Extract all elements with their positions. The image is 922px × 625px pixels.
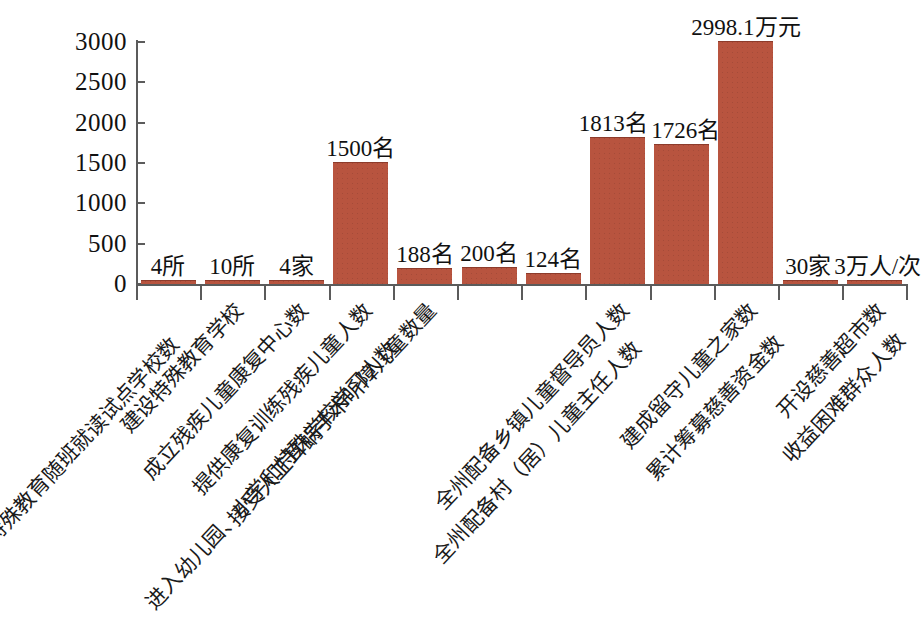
x-axis-tick (136, 284, 138, 300)
y-axis-tick-label: 0 (114, 271, 127, 296)
bar-value-label: 1813名 (579, 112, 648, 136)
bar: 1813名 (590, 137, 645, 284)
x-axis-category-label: 建成留守儿童之家数 (617, 300, 761, 453)
x-axis-category-label: 全州配备乡镇儿童督导员人数 (431, 300, 633, 514)
bar: 188名 (397, 268, 452, 284)
bar-value-label: 4家 (279, 255, 314, 279)
bar-value-label: 10所 (209, 255, 255, 279)
bar-value-label: 1726名 (651, 119, 720, 143)
x-axis-category-label: 累计筹募慈善资金数 (643, 332, 787, 485)
bar: 200名 (462, 267, 517, 284)
bar-value-label: 4所 (151, 255, 186, 279)
bar: 1726名 (654, 144, 709, 284)
bar-value-label: 188名 (396, 243, 454, 267)
x-axis-tick (585, 284, 587, 300)
x-axis-tick (650, 284, 652, 300)
x-axis-tick (457, 284, 459, 300)
y-axis-tick-label: 2500 (75, 69, 127, 94)
bar-value-label: 3万人/次 (834, 255, 921, 279)
bar: 124名 (526, 273, 581, 284)
x-axis-tick (393, 284, 395, 300)
x-axis-category-label: 设立特殊教育随班就读试点学校数 (0, 334, 183, 579)
bar: 2998.1万元 (718, 41, 773, 284)
y-axis-tick-label: 1000 (75, 190, 127, 215)
x-axis-tick (778, 284, 780, 300)
x-axis-category-label: 进入幼儿园、小学和特殊学校学习人数 (143, 338, 402, 613)
y-axis-tick-label: 3000 (75, 29, 127, 54)
x-axis-tick (906, 284, 908, 300)
x-axis-tick (842, 284, 844, 300)
bar-value-label: 124名 (525, 248, 583, 272)
y-axis-tick: 500 (136, 243, 145, 245)
x-axis-tick (521, 284, 523, 300)
bar-value-label: 200名 (460, 242, 518, 266)
y-axis-tick-label: 1500 (75, 150, 127, 175)
bar: 1500名 (333, 162, 388, 284)
x-axis-category-label: 成立残疾儿童康复中心数 (139, 300, 312, 483)
x-axis-category-label: 提供康复训练残疾儿童人数 (189, 300, 376, 499)
bar-chart: 0500100015002000250030004所10所4家1500名188名… (0, 0, 922, 625)
x-axis-category-label: 接受人工耳蜗手术听障儿童数量 (224, 300, 440, 529)
y-axis-tick-label: 500 (88, 231, 127, 256)
x-axis-tick (329, 284, 331, 300)
bar-value-label: 1500名 (326, 137, 395, 161)
y-axis-tick: 2000 (136, 122, 145, 124)
x-axis-category-label: 开设慈善超市数 (774, 300, 890, 422)
bar-value-label: 30家 (785, 255, 831, 279)
y-axis-tick: 3000 (136, 41, 145, 43)
y-axis-tick-label: 2000 (75, 110, 127, 135)
x-axis-tick (200, 284, 202, 300)
x-axis-tick (264, 284, 266, 300)
x-axis-tick (714, 284, 716, 300)
plot-area: 0500100015002000250030004所10所4家1500名188名… (136, 42, 905, 284)
bar-value-label: 2998.1万元 (691, 16, 800, 40)
x-axis-category-label: 全州配备村（居）儿童主任人数 (430, 338, 646, 567)
y-axis-tick: 1000 (136, 202, 145, 204)
x-axis-category-label: 收益困难群众人数 (779, 330, 909, 467)
x-axis-category-label: 建设特殊教育学校 (118, 300, 248, 437)
y-axis-tick: 2500 (136, 81, 145, 83)
y-axis-tick: 1500 (136, 162, 145, 164)
